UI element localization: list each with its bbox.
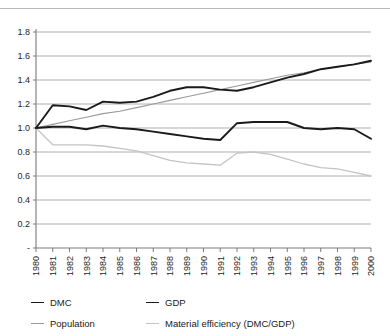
x-tick-label: 1981 [48, 256, 58, 276]
data-series-group [36, 61, 371, 176]
legend-label-material-efficiency: Material efficiency (DMC/GDP) [165, 318, 295, 329]
x-tick-label: 1983 [82, 256, 92, 276]
y-tick-label: 0.2 [17, 219, 30, 229]
x-tick-label: 1984 [98, 256, 108, 276]
legend-label-gdp: GDP [165, 297, 186, 308]
chart-legend: DMC GDP Population Material efficiency (… [0, 292, 390, 336]
x-axis-labels-group: 1980198119821983198419851986198719881989… [31, 256, 376, 276]
series-line-population [36, 62, 371, 128]
x-tick-label: 1995 [283, 256, 293, 276]
legend-label-population: Population [50, 318, 95, 329]
y-tick-label: 1.2 [17, 99, 30, 109]
legend-row-bottom: Population Material efficiency (DMC/GDP) [0, 313, 390, 334]
x-tick-label: 1982 [65, 256, 75, 276]
line-chart-svg: -0.20.40.60.81.01.21.41.61.8 19801981198… [0, 14, 390, 290]
x-tick-label: 1991 [216, 256, 226, 276]
legend-entry-gdp: GDP [146, 297, 186, 308]
y-tick-label: 0.4 [17, 195, 30, 205]
x-tick-label: 1993 [249, 256, 259, 276]
y-tick-label: 1.8 [17, 27, 30, 37]
y-tick-label: 0.6 [17, 171, 30, 181]
header-divider-rule [0, 8, 390, 9]
y-tick-label: 0.8 [17, 147, 30, 157]
x-tick-label: 1994 [266, 256, 276, 276]
x-axis-ticks-group [36, 248, 371, 252]
x-tick-label: 1990 [199, 256, 209, 276]
legend-row-top: DMC GDP [0, 292, 390, 313]
x-tick-label: 1996 [299, 256, 309, 276]
legend-swatch-dmc [31, 302, 44, 303]
cut-off-header-text [0, 0, 390, 5]
legend-swatch-population [31, 323, 44, 324]
x-tick-label: 1986 [132, 256, 142, 276]
figure-container: -0.20.40.60.81.01.21.41.61.8 19801981198… [0, 0, 390, 336]
legend-label-dmc: DMC [50, 297, 72, 308]
legend-swatch-gdp [146, 302, 159, 303]
x-tick-label: 1987 [149, 256, 159, 276]
y-tick-label: 1.0 [17, 123, 30, 133]
x-tick-label: 2000 [366, 256, 376, 276]
series-line-dmc [36, 122, 371, 140]
series-line-gdp [36, 61, 371, 128]
x-tick-label: 1997 [316, 256, 326, 276]
y-tick-label: 1.6 [17, 51, 30, 61]
y-axis-labels-group: -0.20.40.60.81.01.21.41.61.8 [17, 27, 30, 253]
y-tick-label: - [27, 243, 30, 253]
legend-swatch-material-efficiency [146, 323, 159, 324]
x-tick-label: 1985 [115, 256, 125, 276]
x-tick-label: 1989 [182, 256, 192, 276]
chart-plot-area: -0.20.40.60.81.01.21.41.61.8 19801981198… [0, 14, 390, 290]
x-tick-label: 1992 [232, 256, 242, 276]
legend-entry-material-efficiency: Material efficiency (DMC/GDP) [146, 318, 295, 329]
x-tick-label: 1999 [350, 256, 360, 276]
gridlines-group [36, 32, 371, 224]
legend-entry-population: Population [31, 318, 146, 329]
y-tick-label: 1.4 [17, 75, 30, 85]
x-tick-label: 1980 [31, 256, 41, 276]
x-tick-label: 1988 [165, 256, 175, 276]
x-tick-label: 1998 [333, 256, 343, 276]
legend-entry-dmc: DMC [31, 297, 146, 308]
